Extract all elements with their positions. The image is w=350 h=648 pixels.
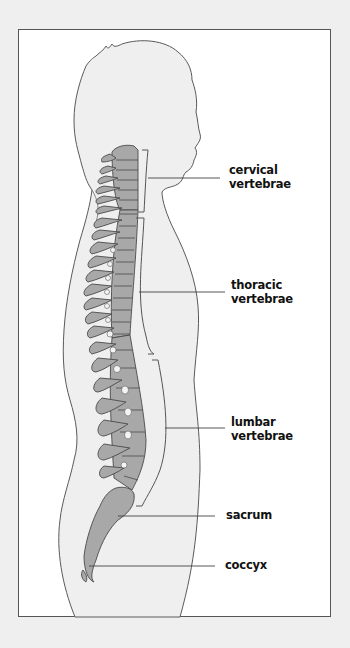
label-lumbar: lumbar vertebrae [231,415,293,443]
label-cervical-line1: cervical [229,163,291,177]
label-thoracic-line1: thoracic [231,278,293,292]
label-cervical: cervical vertebrae [229,163,291,191]
label-coccyx: coccyx [225,558,267,572]
label-cervical-line2: vertebrae [229,177,291,191]
label-lumbar-line1: lumbar [231,415,293,429]
spine-diagram [0,0,350,648]
label-lumbar-line2: vertebrae [231,429,293,443]
label-sacrum: sacrum [226,508,272,522]
label-coccyx-line1: coccyx [225,558,267,572]
label-thoracic: thoracic vertebrae [231,278,293,306]
label-sacrum-line1: sacrum [226,508,272,522]
label-thoracic-line2: vertebrae [231,292,293,306]
